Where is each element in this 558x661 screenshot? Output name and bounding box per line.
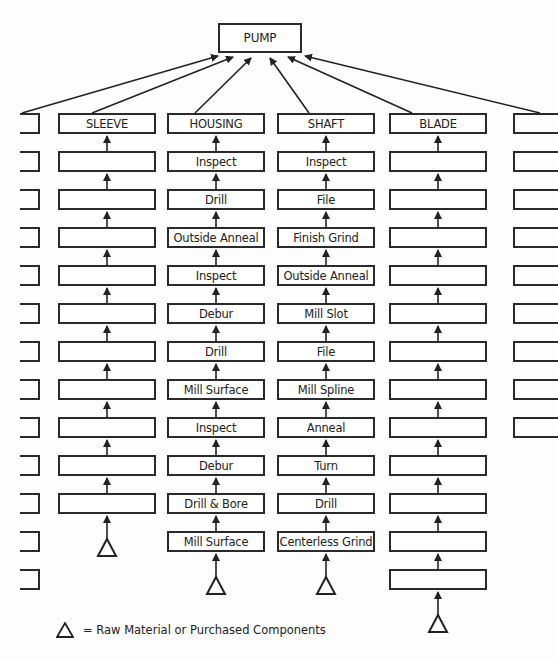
partial-right-box xyxy=(513,227,558,248)
raw-material-triangle-icon xyxy=(429,615,447,632)
housing-header-box: HOUSING xyxy=(167,113,265,134)
raw-material-triangle-icon xyxy=(98,539,116,556)
process-step-box xyxy=(58,303,156,324)
process-step-box: Mill Slot xyxy=(277,303,375,324)
raw-material-triangle-icon xyxy=(317,577,335,594)
process-step-box: Inspect xyxy=(167,151,265,172)
column-header-label: SHAFT xyxy=(308,117,344,131)
process-step-box xyxy=(389,531,487,552)
process-step-box: Drill xyxy=(167,189,265,210)
column-header-label: BLADE xyxy=(419,117,457,131)
process-step-box xyxy=(58,265,156,286)
partial-right-box xyxy=(513,303,558,324)
process-step-label: Mill Surface xyxy=(184,383,249,397)
process-step-label: Anneal xyxy=(307,421,346,435)
process-step-box: Outside Anneal xyxy=(167,227,265,248)
process-step-box: Outside Anneal xyxy=(277,265,375,286)
partial-left-box xyxy=(20,151,40,172)
process-step-box: Inspect xyxy=(167,265,265,286)
process-step-box: Anneal xyxy=(277,417,375,438)
process-step-box: Mill Spline xyxy=(277,379,375,400)
process-step-box xyxy=(389,151,487,172)
partial-left-box xyxy=(20,493,40,514)
partial-left-box xyxy=(20,189,40,210)
process-step-box xyxy=(389,455,487,476)
process-step-box: Inspect xyxy=(167,417,265,438)
partial-left-box xyxy=(20,113,40,134)
process-step-box: Inspect xyxy=(277,151,375,172)
partial-left-box xyxy=(20,455,40,476)
process-step-box xyxy=(58,455,156,476)
process-step-box: Drill xyxy=(277,493,375,514)
process-step-label: Finish Grind xyxy=(293,231,358,245)
shaft-header-box: SHAFT xyxy=(277,113,375,134)
process-step-box xyxy=(389,303,487,324)
process-step-label: Drill xyxy=(205,193,227,207)
raw-material-triangle-icon xyxy=(56,622,74,638)
process-step-box xyxy=(58,379,156,400)
process-step-box: Finish Grind xyxy=(277,227,375,248)
sleeve-header-box: SLEEVE xyxy=(58,113,156,134)
process-step-box xyxy=(58,417,156,438)
process-step-box: Mill Surface xyxy=(167,379,265,400)
process-step-box xyxy=(389,265,487,286)
process-step-label: Mill Surface xyxy=(184,535,249,549)
process-step-box: Centerless Grind xyxy=(277,531,375,552)
partial-left-box xyxy=(20,417,40,438)
process-step-box: Drill & Bore xyxy=(167,493,265,514)
process-step-label: Drill xyxy=(205,345,227,359)
process-step-box: Debur xyxy=(167,455,265,476)
process-step-box xyxy=(58,341,156,362)
process-step-label: Inspect xyxy=(196,421,236,435)
process-step-box xyxy=(389,189,487,210)
process-step-label: Debur xyxy=(199,459,233,473)
process-step-label: Mill Spline xyxy=(298,383,354,397)
process-step-label: Debur xyxy=(199,307,233,321)
process-step-box xyxy=(389,379,487,400)
partial-right-box xyxy=(513,265,558,286)
process-step-box: Turn xyxy=(277,455,375,476)
process-step-box: File xyxy=(277,341,375,362)
process-step-box xyxy=(58,493,156,514)
partial-left-box xyxy=(20,265,40,286)
partial-right-box xyxy=(513,417,558,438)
partial-right-box xyxy=(513,151,558,172)
partial-left-box xyxy=(20,569,40,590)
partial-right-box xyxy=(513,379,558,400)
process-step-box xyxy=(389,417,487,438)
pump-label: PUMP xyxy=(244,31,277,45)
partial-right-box xyxy=(513,113,558,134)
process-step-box xyxy=(389,493,487,514)
process-step-box xyxy=(389,569,487,590)
process-step-label: Outside Anneal xyxy=(283,269,368,283)
blade-header-box: BLADE xyxy=(389,113,487,134)
partial-left-box xyxy=(20,303,40,324)
process-step-box xyxy=(58,189,156,210)
process-step-label: Outside Anneal xyxy=(173,231,258,245)
process-step-label: File xyxy=(317,193,335,207)
partial-left-box xyxy=(20,341,40,362)
process-step-label: Inspect xyxy=(196,155,236,169)
process-step-box xyxy=(58,227,156,248)
process-step-label: Drill xyxy=(315,497,337,511)
partial-left-box xyxy=(20,227,40,248)
partial-left-box xyxy=(20,379,40,400)
process-step-label: Mill Slot xyxy=(304,307,347,321)
partial-right-box xyxy=(513,341,558,362)
column-header-label: HOUSING xyxy=(190,117,243,131)
process-step-label: Turn xyxy=(314,459,338,473)
process-step-label: Inspect xyxy=(196,269,236,283)
pump-root-box: PUMP xyxy=(218,23,302,53)
process-step-label: File xyxy=(317,345,335,359)
process-step-box xyxy=(389,227,487,248)
partial-right-box xyxy=(513,189,558,210)
column-header-label: SLEEVE xyxy=(86,117,128,131)
process-step-label: Inspect xyxy=(306,155,346,169)
process-step-box xyxy=(389,341,487,362)
process-step-box: File xyxy=(277,189,375,210)
process-step-box: Drill xyxy=(167,341,265,362)
process-step-label: Drill & Bore xyxy=(184,497,248,511)
legend-text: = Raw Material or Purchased Components xyxy=(83,623,326,637)
raw-material-triangle-icon xyxy=(207,577,225,594)
